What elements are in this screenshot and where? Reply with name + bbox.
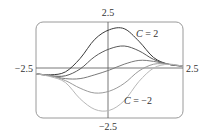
curve-label-c-neg2: C = −2 xyxy=(124,95,152,106)
family-of-curves-chart: 2.5 −2.5 −2.5 2.5 C = 2 C = −2 xyxy=(0,0,202,138)
x-max-label: 2.5 xyxy=(186,63,199,74)
curves-group xyxy=(36,28,183,111)
curve-label-c-2: C = 2 xyxy=(136,28,158,39)
x-min-label: −2.5 xyxy=(15,63,33,74)
y-min-label: −2.5 xyxy=(99,121,117,132)
y-max-label: 2.5 xyxy=(102,7,115,18)
curve-c-2 xyxy=(36,64,183,111)
